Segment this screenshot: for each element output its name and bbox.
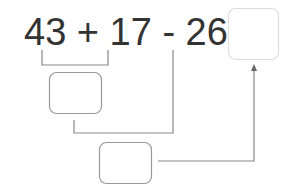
arrow-up-icon [251, 64, 257, 71]
intermediate-sum-box [50, 73, 102, 114]
diagram-lines [0, 0, 290, 191]
bracket-43-17 [42, 50, 108, 65]
answer-box [229, 9, 279, 60]
intermediate-difference-box [100, 143, 152, 184]
